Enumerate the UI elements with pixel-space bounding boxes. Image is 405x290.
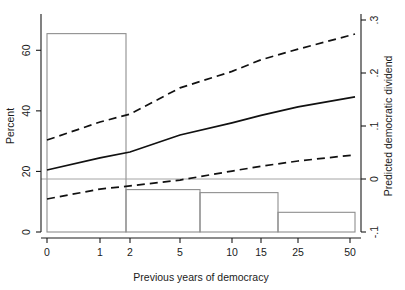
histogram-bar xyxy=(47,34,126,232)
bottom-tick-label: 5 xyxy=(177,246,183,258)
left-tick-label: 20 xyxy=(20,165,32,177)
right-tick-label: .2 xyxy=(368,68,380,77)
confidence-bound-line xyxy=(47,34,355,140)
left-axis-title: Percent xyxy=(4,108,16,144)
bottom-tick-label: 2 xyxy=(127,246,133,258)
bottom-tick-label: 50 xyxy=(344,246,356,258)
left-axis: 0204060 xyxy=(20,14,41,235)
right-tick-label: -.1 xyxy=(368,226,380,238)
histogram-bar xyxy=(200,193,278,232)
bottom-tick-label: 0 xyxy=(44,246,50,258)
histogram-bars xyxy=(47,34,355,232)
bottom-axis: 012510152550 xyxy=(41,238,361,258)
bottom-axis-title: Previous years of democracy xyxy=(133,271,269,283)
right-tick-label: .3 xyxy=(368,15,380,24)
left-tick-label: 0 xyxy=(20,229,32,235)
bottom-tick-label: 25 xyxy=(292,246,304,258)
chart-figure: 0204060 -.10.1.2.3 012510152550 Percent … xyxy=(0,0,405,290)
bottom-tick-label: 10 xyxy=(226,246,238,258)
bottom-tick-label: 1 xyxy=(97,246,103,258)
right-tick-label: .1 xyxy=(368,121,380,130)
right-axis: -.10.1.2.3 xyxy=(361,14,380,238)
trend-lines xyxy=(47,34,355,199)
histogram-bar xyxy=(126,190,200,232)
chart-canvas: 0204060 -.10.1.2.3 012510152550 Percent … xyxy=(0,0,405,290)
right-axis-title: Predicted democratic dividend xyxy=(382,56,394,197)
histogram-bar xyxy=(278,212,355,232)
left-tick-label: 60 xyxy=(20,44,32,56)
right-tick-label: 0 xyxy=(368,176,380,182)
bottom-tick-label: 15 xyxy=(255,246,267,258)
left-tick-label: 40 xyxy=(20,105,32,117)
